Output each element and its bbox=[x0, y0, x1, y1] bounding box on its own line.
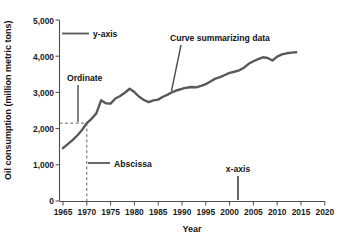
x-axis-annotation-label: x-axis bbox=[226, 164, 251, 174]
abscissa-annotation-label: Abscissa bbox=[114, 159, 152, 169]
y-tick-label-0: 0 bbox=[49, 196, 54, 206]
y-axis-annotation-label: y-axis bbox=[93, 29, 118, 39]
x-tick-label-2000: 2000 bbox=[220, 207, 239, 217]
y-tick-label-5000: 5,000 bbox=[33, 16, 54, 26]
x-tick-label-1965: 1965 bbox=[54, 207, 73, 217]
y-axis-title: Oil consumption (million metric tons) bbox=[3, 20, 13, 180]
curve-annotation-label: Curve summarizing data bbox=[170, 33, 270, 43]
x-tick-label-1990: 1990 bbox=[173, 207, 192, 217]
ordinate-annotation-label: Ordinate bbox=[67, 73, 103, 83]
chart-figure: Oil consumption (million metric tons) 0 … bbox=[0, 0, 340, 249]
x-tick-label-2020: 2020 bbox=[315, 207, 334, 217]
x-tick-label-2015: 2015 bbox=[292, 207, 311, 217]
x-tick-label-1985: 1985 bbox=[149, 207, 168, 217]
y-tick-label-3000: 3,000 bbox=[33, 88, 54, 98]
chart-svg: Oil consumption (million metric tons) 0 … bbox=[0, 0, 340, 249]
x-tick-label-2005: 2005 bbox=[244, 207, 263, 217]
x-tick-label-1980: 1980 bbox=[125, 207, 144, 217]
x-tick-label-1995: 1995 bbox=[196, 207, 215, 217]
y-tick-label-4000: 4,000 bbox=[33, 52, 54, 62]
x-axis-title: Year bbox=[182, 224, 202, 234]
y-tick-label-2000: 2,000 bbox=[33, 124, 54, 134]
x-tick-label-1975: 1975 bbox=[101, 207, 120, 217]
x-tick-label-2010: 2010 bbox=[268, 207, 287, 217]
y-tick-label-1000: 1,000 bbox=[33, 160, 54, 170]
x-tick-label-1970: 1970 bbox=[77, 207, 96, 217]
